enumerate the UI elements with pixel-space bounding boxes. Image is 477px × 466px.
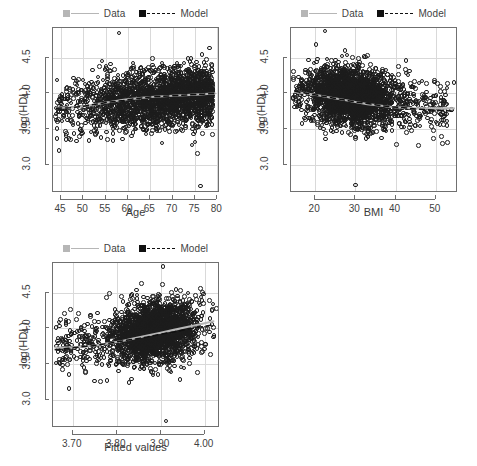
scatter-point — [167, 129, 172, 134]
scatter-point — [387, 101, 392, 106]
scatter-point — [333, 77, 338, 82]
scatter-point — [413, 86, 418, 91]
scatter-point — [293, 92, 298, 97]
scatter-point — [79, 129, 84, 134]
scatter-point — [167, 368, 172, 373]
legend-label-model: Model — [418, 8, 446, 19]
scatter-point — [329, 58, 334, 63]
scatter-point — [176, 308, 181, 313]
scatter-point — [210, 109, 215, 114]
scatter-point — [105, 137, 110, 142]
scatter-point — [440, 141, 445, 146]
scatter-point — [200, 131, 205, 136]
scatter-point — [396, 104, 401, 109]
scatter-point — [445, 102, 450, 107]
scatter-point — [342, 122, 347, 127]
scatter-point — [57, 324, 62, 329]
scatter-point — [122, 126, 127, 131]
scatter-point — [119, 86, 124, 91]
scatter-point — [164, 419, 169, 424]
scatter-point — [205, 115, 210, 120]
scatter-point — [127, 380, 132, 385]
scatter-point — [92, 379, 97, 384]
scatter-point — [68, 358, 73, 363]
x-axis-line — [72, 434, 204, 435]
scatter-point — [65, 118, 70, 123]
scatter-point — [424, 90, 429, 95]
scatter-point — [202, 331, 207, 336]
legend-key-model — [377, 9, 413, 19]
scatter-point — [198, 184, 203, 189]
scatter-point — [442, 89, 447, 94]
scatter-point — [327, 99, 332, 104]
scatter-point — [199, 350, 204, 355]
scatter-point — [396, 72, 401, 77]
scatter-point — [304, 111, 309, 116]
scatter-point — [158, 311, 163, 316]
scatter-point — [111, 115, 116, 120]
scatter-point — [178, 288, 183, 293]
x-axis-tick — [72, 430, 73, 434]
scatter-point — [364, 106, 369, 111]
scatter-point — [391, 84, 396, 89]
scatter-point — [300, 121, 305, 126]
x-axis-tick — [82, 195, 83, 199]
scatter-point — [210, 93, 215, 98]
scatter-point — [87, 348, 92, 353]
scatter-point — [137, 92, 142, 97]
scatter-point — [311, 107, 316, 112]
scatter-point — [291, 69, 296, 74]
scatter-point — [149, 89, 154, 94]
x-axis-tick — [116, 430, 117, 434]
scatter-point — [195, 151, 200, 156]
scatter-point — [340, 130, 345, 135]
x-axis-title: Age — [52, 206, 219, 218]
scatter-point — [91, 106, 96, 111]
scatter-point — [60, 358, 65, 363]
scatter-point — [325, 88, 330, 93]
scatter-point — [200, 298, 205, 303]
scatter-point — [306, 104, 311, 109]
scatter-point — [169, 353, 174, 358]
scatter-point — [355, 120, 360, 125]
scatter-point — [125, 363, 130, 368]
scatter-point — [345, 53, 350, 58]
scatter-point — [111, 131, 116, 136]
x-axis-tick — [194, 195, 195, 199]
scatter-point — [153, 349, 158, 354]
scatter-point — [341, 88, 346, 93]
legend-swatch-data-icon — [63, 245, 70, 252]
y-axis-tick — [45, 164, 49, 165]
y-axis-tick — [45, 363, 49, 364]
y-axis-tick — [45, 92, 49, 93]
scatter-point — [416, 143, 421, 148]
scatter-point — [157, 359, 162, 364]
legend-panel-age: DataModel — [52, 8, 219, 19]
scatter-point — [291, 77, 296, 82]
x-axis-tick — [395, 195, 396, 199]
scatter-point — [178, 84, 183, 89]
scatter-point — [431, 128, 436, 133]
scatter-point — [335, 124, 340, 129]
scatter-point — [193, 140, 198, 145]
scatter-point — [167, 102, 172, 107]
scatter-point — [158, 343, 163, 348]
scatter-point — [132, 365, 137, 370]
scatter-point — [75, 347, 80, 352]
scatter-point — [164, 345, 169, 350]
scatter-point — [74, 79, 79, 84]
scatter-point — [55, 136, 60, 141]
legend-panel-fitted: DataModel — [52, 243, 219, 254]
legend-line-model-icon — [385, 13, 413, 14]
scatter-point — [111, 138, 116, 143]
scatter-point — [343, 48, 348, 53]
scatter-point — [434, 93, 439, 98]
y-axis-tick — [283, 128, 287, 129]
scatter-point — [112, 67, 117, 72]
scatter-point — [149, 358, 154, 363]
x-axis-tick — [354, 195, 355, 199]
scatter-point — [69, 332, 74, 337]
scatter-point — [412, 79, 417, 84]
legend-swatch-data-icon — [63, 10, 70, 17]
scatter-point — [380, 69, 385, 74]
